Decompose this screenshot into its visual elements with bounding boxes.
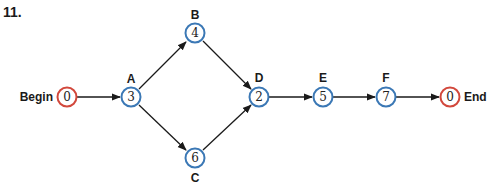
- node-A-label: A: [127, 72, 136, 86]
- node-E-value: 5: [319, 90, 327, 104]
- edge-B-D: [203, 41, 251, 89]
- node-C-label: C: [191, 171, 200, 185]
- node-E-label: E: [319, 71, 327, 85]
- node-C-value: 6: [191, 151, 199, 165]
- node-B-value: 4: [191, 26, 199, 40]
- node-end-value: 0: [446, 90, 454, 104]
- node-F-label: F: [382, 71, 389, 85]
- node-begin-value: 0: [63, 90, 71, 104]
- node-D-value: 2: [255, 90, 263, 104]
- edge-A-B: [139, 42, 186, 89]
- node-A-value: 3: [127, 90, 135, 104]
- edge-C-D: [203, 105, 251, 150]
- precedence-diagram: 0 3 4 6 2 5 7 0 Begin A B C D E F End: [0, 0, 494, 187]
- edge-A-C: [139, 105, 186, 150]
- node-D-label: D: [255, 71, 264, 85]
- node-F-value: 7: [382, 90, 390, 104]
- node-B-label: B: [191, 8, 200, 22]
- node-begin-label: Begin: [20, 90, 53, 104]
- node-end-label: End: [464, 90, 487, 104]
